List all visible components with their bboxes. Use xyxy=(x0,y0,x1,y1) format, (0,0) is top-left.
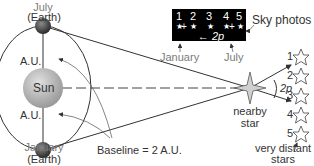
au-top-label: A.U. xyxy=(20,55,41,67)
baseline-label: Baseline = 2 A.U. xyxy=(97,144,182,156)
distant-stars-label-2: stars xyxy=(250,153,314,165)
crosshair-january-icon: + xyxy=(181,22,187,32)
january-earth-label: (Earth) xyxy=(22,153,66,165)
sky-photos-label: Sky photos xyxy=(252,14,311,26)
crosshair-july-icon: + xyxy=(229,22,235,32)
photo-num-5: 5 xyxy=(236,11,242,22)
nearby-star-label-2: star xyxy=(226,117,274,129)
sun-label: Sun xyxy=(33,82,54,94)
distant-stars xyxy=(293,49,309,142)
distant-star-num-3: 3 xyxy=(287,89,293,101)
photo-separation: ← 2p → xyxy=(194,31,228,51)
distant-star-num-4: 4 xyxy=(287,108,293,120)
distant-star-num-1: 1 xyxy=(287,50,293,62)
sky-photo: 1 2 3 4 5 ★ + ★ ★ ★ + ★ ← 2p → xyxy=(172,9,246,41)
july-earth-label: (Earth) xyxy=(22,11,66,23)
january-label: January xyxy=(14,141,74,153)
nearby-star-icon xyxy=(234,72,266,104)
photo-star-icon: ★ xyxy=(190,23,197,31)
photo-january-label: January xyxy=(160,51,199,63)
distant-star-num-5: 5 xyxy=(287,127,293,139)
photo-num-3: 3 xyxy=(206,11,212,22)
au-bottom-label: A.U. xyxy=(20,109,41,121)
nearby-star-label-1: nearby xyxy=(226,105,274,117)
distant-star-num-2: 2 xyxy=(287,69,293,81)
photo-july-label: July xyxy=(224,51,244,63)
january-sightline xyxy=(43,88,250,150)
photo-star-icon: ★ xyxy=(237,23,244,31)
photo-num-2: 2 xyxy=(190,11,196,22)
